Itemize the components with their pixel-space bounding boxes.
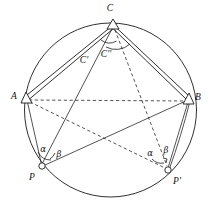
vertex-marker-c bbox=[107, 19, 119, 29]
segment-c-b-outer bbox=[114, 26, 189, 97]
label-angle-alpha-pprime: α bbox=[147, 148, 153, 158]
label-point-c-double-prime: C'' bbox=[101, 49, 112, 59]
segment-a-c-inner bbox=[30, 29, 114, 100]
angle-arc-alpha-pprime bbox=[152, 159, 164, 163]
label-angle-beta-pprime: β bbox=[163, 145, 169, 155]
label-point-c-prime: C' bbox=[80, 55, 89, 65]
vertex-marker-p bbox=[39, 163, 45, 169]
vertex-marker-b bbox=[183, 93, 194, 104]
label-angle-alpha-p: α bbox=[40, 144, 46, 154]
segment-c-b-inner bbox=[114, 29, 187, 100]
label-point-b: B bbox=[195, 92, 201, 102]
segment-pprime-b bbox=[168, 101, 189, 169]
segment-pprime-b-arcline bbox=[170, 101, 191, 169]
segment-a-b-dashed bbox=[29, 100, 186, 101]
segment-p-b bbox=[44, 100, 188, 166]
diagram-canvas: C A B P P' C' C'' α β α β bbox=[0, 0, 212, 209]
label-point-a: A bbox=[10, 91, 17, 101]
label-point-p-prime: P' bbox=[172, 176, 182, 186]
label-angle-beta-p: β bbox=[56, 149, 62, 159]
vertex-marker-a bbox=[21, 92, 32, 103]
label-point-p: P bbox=[28, 172, 35, 182]
segment-a-pprime-dashed bbox=[30, 102, 165, 168]
vertex-marker-pprime bbox=[165, 167, 171, 173]
label-point-c: C bbox=[107, 3, 114, 13]
angle-arc-c-prime bbox=[101, 40, 117, 43]
angle-arc-beta-p bbox=[50, 153, 55, 159]
segment-p-c bbox=[42, 27, 113, 164]
geometry-figure: C A B P P' C' C'' α β α β bbox=[0, 0, 212, 209]
